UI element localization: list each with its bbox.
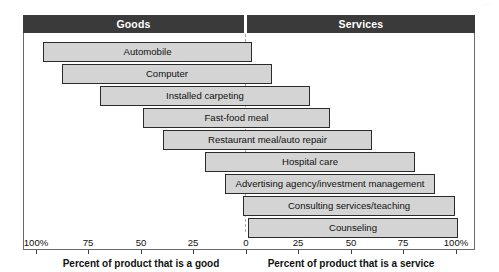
axis-tick-label-left-1: 75	[83, 237, 94, 248]
bar-consulting-services-teaching: Consulting services/teaching	[243, 196, 455, 216]
axis-line: 100%7550250255075100%	[23, 250, 475, 251]
header-band: Goods Services	[23, 15, 475, 33]
axis-tick-label-left-3: 25	[188, 237, 199, 248]
axis-tick-right-3	[456, 250, 457, 254]
bar-label: Computer	[146, 68, 188, 79]
axis-tick-label-right-3: 100%	[444, 237, 469, 248]
bar-label: Fast-food meal	[205, 112, 269, 123]
page-artifact: ···	[484, 1, 492, 7]
axis-tick-right-2	[403, 250, 404, 254]
axis-tick-label-right-2: 75	[398, 237, 409, 248]
goods-services-continuum-figure: ··· Goods Services AutomobileComputerIns…	[0, 0, 499, 272]
axis-tick-left-0	[36, 250, 37, 254]
axis-tick-label-right-1: 50	[346, 237, 357, 248]
bar-hospital-care: Hospital care	[205, 152, 415, 172]
bar-advertising-agency-investment-management: Advertising agency/investment management	[225, 174, 435, 194]
axis-title-goods: Percent of product that is a good	[63, 258, 220, 269]
axis-tick-left-4	[246, 250, 247, 254]
bar-counseling: Counseling	[248, 218, 458, 238]
bar-label: Installed carpeting	[166, 90, 244, 101]
bar-fast-food-meal: Fast-food meal	[143, 108, 330, 128]
axis-tick-label-right-0: 25	[293, 237, 304, 248]
bar-label: Counseling	[329, 222, 377, 233]
bar-label: Restaurant meal/auto repair	[208, 134, 327, 145]
axis-tick-label-left-4: 0	[243, 237, 248, 248]
axis-title-services: Percent of product that is a service	[268, 258, 435, 269]
bar-automobile: Automobile	[43, 42, 252, 62]
axis-tick-right-1	[351, 250, 352, 254]
bar-label: Automobile	[124, 46, 172, 57]
bar-label: Advertising agency/investment management	[236, 178, 425, 189]
bar-installed-carpeting: Installed carpeting	[100, 86, 310, 106]
axis-tick-label-left-0: 100%	[24, 237, 49, 248]
header-label-goods: Goods	[23, 15, 244, 33]
bar-label: Hospital care	[282, 156, 338, 167]
axis-tick-left-1	[88, 250, 89, 254]
header-label-services: Services	[247, 15, 475, 33]
axis-tick-left-3	[193, 250, 194, 254]
bars-area: AutomobileComputerInstalled carpetingFas…	[0, 33, 499, 223]
axis-tick-left-2	[141, 250, 142, 254]
bar-label: Consulting services/teaching	[288, 200, 410, 211]
axis-tick-right-0	[298, 250, 299, 254]
bar-computer: Computer	[62, 64, 272, 84]
axis-tick-label-left-2: 50	[136, 237, 147, 248]
bar-restaurant-meal-auto-repair: Restaurant meal/auto repair	[163, 130, 372, 150]
